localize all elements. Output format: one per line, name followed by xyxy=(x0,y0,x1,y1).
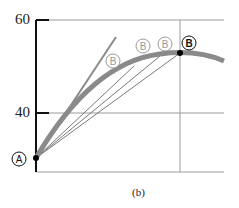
y-tick-label-60: 60 xyxy=(15,11,30,28)
label-b-intermediate: B xyxy=(106,54,120,68)
label-b-intermediate: B xyxy=(136,39,150,53)
point-a xyxy=(33,155,39,161)
diagram: A B B B B xyxy=(0,0,239,208)
svg-text:B: B xyxy=(110,56,117,67)
label-a-marker: A xyxy=(12,152,26,166)
svg-text:B: B xyxy=(162,39,169,50)
chord-line xyxy=(36,53,180,158)
curve xyxy=(36,53,224,158)
point-b xyxy=(177,50,183,56)
chord-line xyxy=(36,56,160,158)
y-tick-label-40: 40 xyxy=(15,104,30,121)
label-b-intermediate: B xyxy=(158,37,172,51)
svg-text:A: A xyxy=(16,154,23,165)
chord-line xyxy=(36,66,134,158)
label-b-main: B xyxy=(182,36,196,50)
figure-caption: (b) xyxy=(132,186,145,198)
svg-text:B: B xyxy=(140,41,147,52)
svg-text:B: B xyxy=(185,38,192,49)
